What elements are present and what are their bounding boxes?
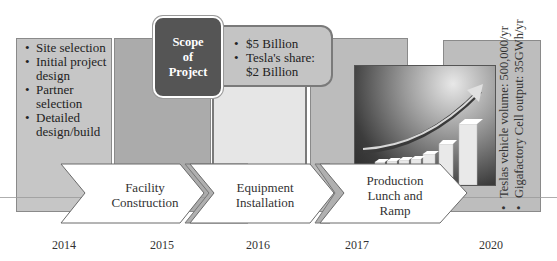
arrow-label-equipment-installation: Equipment Installation — [220, 180, 310, 210]
bullet-item: Teslas vehicle volume: 500,000/yr — [497, 42, 512, 212]
year-label-2015: 2015 — [150, 238, 174, 253]
year-label-2017: 2017 — [345, 238, 369, 253]
process-arrows — [0, 0, 557, 261]
bullet-item: Gigafactory Cell output: 35GWh/yr — [512, 42, 527, 212]
target-2020-bullets: Teslas vehicle volume: 500,000/yr Gigafa… — [497, 42, 527, 212]
year-label-2016: 2016 — [246, 238, 270, 253]
year-label-2020: 2020 — [479, 238, 503, 253]
arrow-label-facility-construction: Facility Construction — [100, 180, 190, 210]
year-label-2014: 2014 — [52, 238, 76, 253]
arrow-label-production-launch-ramp: Production Lunch and Ramp — [355, 173, 435, 218]
